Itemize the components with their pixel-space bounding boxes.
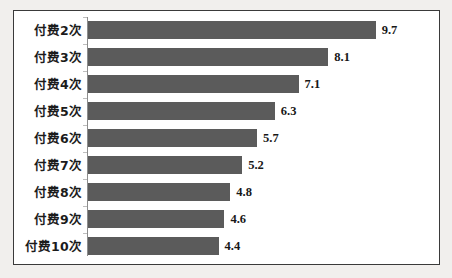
axis-tick: [83, 152, 87, 153]
bar-value-label: 5.7: [263, 129, 279, 147]
bar-value-label: 4.4: [225, 237, 241, 255]
bar: [88, 237, 219, 255]
axis-tick: [83, 44, 87, 45]
bar-value-label: 8.1: [334, 48, 350, 66]
bar: [88, 129, 257, 147]
bar-value-label: 6.3: [281, 102, 297, 120]
bar: [88, 183, 230, 201]
bar: [88, 210, 224, 228]
bar-row: 付费2次9.7: [87, 17, 437, 44]
axis-tick: [83, 71, 87, 72]
bar-value-label: 4.6: [230, 210, 246, 228]
bar-row: 付费8次4.8: [87, 179, 437, 206]
category-label: 付费8次: [34, 179, 83, 206]
chart-frame: 付费2次9.7付费3次8.1付费4次7.1付费5次6.3付费6次5.7付费7次5…: [13, 10, 440, 265]
bar-row: 付费10次4.4: [87, 233, 437, 260]
bar-row: 付费7次5.2: [87, 152, 437, 179]
category-label: 付费10次: [25, 233, 82, 260]
axis-tick: [83, 17, 87, 18]
bar-value-label: 7.1: [305, 75, 321, 93]
bar: [88, 156, 242, 174]
bar-row: 付费5次6.3: [87, 98, 437, 125]
bar: [88, 102, 275, 120]
bar-value-label: 9.7: [382, 21, 398, 39]
category-label: 付费3次: [34, 44, 83, 71]
bar-row: 付费4次7.1: [87, 71, 437, 98]
plot-area: 付费2次9.7付费3次8.1付费4次7.1付费5次6.3付费6次5.7付费7次5…: [87, 17, 437, 256]
bar-value-label: 4.8: [236, 183, 252, 201]
axis-tick: [83, 233, 87, 234]
bar: [88, 48, 328, 66]
bar-row: 付费9次4.6: [87, 206, 437, 233]
category-label: 付费2次: [34, 17, 83, 44]
axis-tick: [83, 206, 87, 207]
category-label: 付费7次: [34, 152, 83, 179]
category-label: 付费5次: [34, 98, 83, 125]
bar: [88, 21, 376, 39]
bar-value-label: 5.2: [248, 156, 264, 174]
category-label: 付费9次: [34, 206, 83, 233]
axis-tick: [83, 125, 87, 126]
bar-row: 付费6次5.7: [87, 125, 437, 152]
category-label: 付费4次: [34, 71, 83, 98]
axis-tick: [83, 98, 87, 99]
bar: [88, 75, 299, 93]
bar-row: 付费3次8.1: [87, 44, 437, 71]
category-label: 付费6次: [34, 125, 83, 152]
axis-tick: [83, 179, 87, 180]
